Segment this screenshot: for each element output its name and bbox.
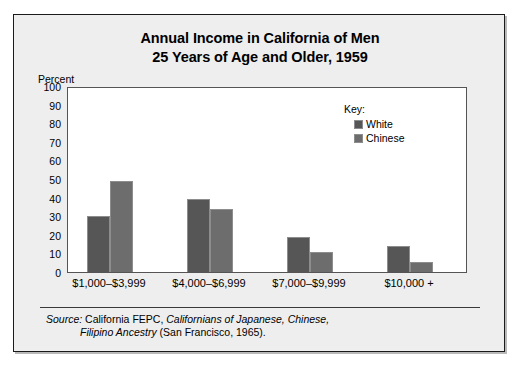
y-tick-90: 90 (19, 101, 61, 111)
source-imprint: (San Francisco, 1965). (157, 326, 266, 338)
bar-white-group-1 (87, 216, 110, 272)
bar-chinese-group-4 (410, 262, 433, 272)
source-label: Source: (46, 313, 82, 325)
y-tick-20: 20 (19, 231, 61, 241)
chart-title: Annual Income in California of Men 25 Ye… (14, 29, 506, 67)
x-tick-label-4: $10,000 + (349, 277, 469, 289)
legend-swatch-chinese (354, 134, 363, 143)
legend: Key: WhiteChinese (344, 103, 405, 146)
source-line-2: Filipino Ancestry (San Francisco, 1965). (46, 326, 476, 339)
legend-swatch-white (354, 120, 363, 129)
figure-panel: Annual Income in California of Men 25 Ye… (13, 14, 505, 352)
legend-entries: WhiteChinese (344, 118, 405, 144)
legend-entry-white: White (354, 118, 405, 130)
chart-title-line-2: 25 Years of Age and Older, 1959 (14, 48, 506, 67)
y-tick-80: 80 (19, 119, 61, 129)
source-divider (40, 307, 480, 308)
legend-label-white: White (366, 118, 393, 130)
bar-chinese-group-2 (210, 209, 233, 272)
bar-chinese-group-3 (310, 252, 333, 272)
legend-label-chinese: Chinese (366, 132, 405, 144)
y-tick-40: 40 (19, 194, 61, 204)
bar-white-group-2 (187, 199, 210, 272)
bar-white-group-4 (387, 246, 410, 272)
source-work-title-line-1: Californians of Japanese, Chinese, (166, 313, 329, 325)
plot-area (67, 87, 467, 273)
y-tick-50: 50 (19, 175, 61, 185)
y-tick-10: 10 (19, 249, 61, 259)
bar-chinese-group-1 (110, 181, 133, 272)
legend-title: Key: (344, 103, 405, 115)
y-tick-70: 70 (19, 138, 61, 148)
source-publisher: California FEPC, (85, 313, 166, 325)
chart-title-line-1: Annual Income in California of Men (14, 29, 506, 48)
source-work-title-line-2: Filipino Ancestry (80, 326, 157, 338)
y-tick-30: 30 (19, 212, 61, 222)
y-tick-100: 100 (19, 82, 61, 92)
source-note: Source: California FEPC, Californians of… (46, 313, 476, 339)
legend-entry-chinese: Chinese (354, 132, 405, 144)
bar-white-group-3 (287, 237, 310, 272)
y-tick-60: 60 (19, 156, 61, 166)
